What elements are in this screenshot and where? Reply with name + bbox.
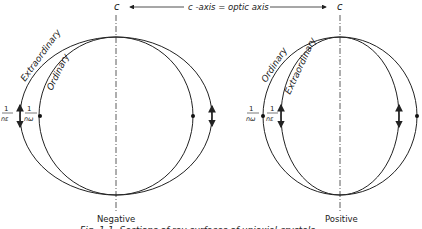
outer-intercept-dot-right — [415, 114, 419, 118]
svg-text:1: 1 — [4, 105, 8, 113]
inner-intercept-dot-right — [191, 114, 195, 118]
fraction-outer: 1 nω — [246, 105, 259, 123]
fraction-inner: 1 nε — [266, 105, 278, 123]
svg-text:1: 1 — [27, 105, 31, 113]
outer-curve-label: Ordinary — [259, 45, 289, 84]
svg-text:nω: nω — [246, 115, 256, 123]
outer-intercept-dot-left — [261, 114, 265, 118]
figure-caption-negative: Negative — [97, 214, 135, 224]
svg-text:1: 1 — [270, 105, 274, 113]
c-axis-label-left: c — [114, 1, 120, 12]
c-axis-label-right: c — [337, 1, 343, 12]
fraction-outer: 1 nε — [1, 105, 13, 123]
inner-intercept-dot-left — [38, 114, 42, 118]
uniaxial-ray-surface-diagram: c c c -axis = optic axis Extraordinary O… — [0, 0, 422, 229]
svg-text:nε: nε — [266, 115, 274, 123]
svg-text:nω: nω — [24, 115, 34, 123]
negative-figure: Extraordinary Ordinary 1 nε 1 nω Negativ… — [1, 15, 212, 224]
svg-text:1: 1 — [249, 105, 253, 113]
optic-axis-caption: c -axis = optic axis — [188, 2, 269, 12]
figure-caption-positive: Positive — [325, 214, 358, 224]
positive-figure: Ordinary Extraordinary 1 nω 1 nε Positiv… — [246, 15, 419, 224]
figure-caption: Fig. 1-1. Sections of ray surfaces of un… — [80, 225, 318, 229]
fraction-inner: 1 nω — [24, 105, 37, 123]
inner-curve-label: Extraordinary — [283, 35, 318, 96]
inner-curve-label: Ordinary — [45, 52, 71, 92]
svg-text:nε: nε — [1, 115, 9, 123]
